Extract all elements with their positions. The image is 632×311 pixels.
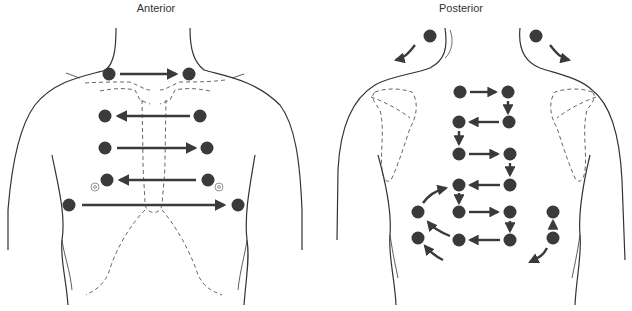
anterior-arrows xyxy=(82,74,224,205)
posterior-shoulder-sites xyxy=(424,30,543,43)
post-row1-right xyxy=(502,86,515,99)
ant-site-4-left xyxy=(101,174,114,187)
post-arrow-shoulder-left xyxy=(396,45,415,60)
post-row3-left xyxy=(453,148,466,161)
post-row2-left xyxy=(453,116,466,129)
left-nipple-icon xyxy=(91,183,99,191)
post-arrow-shoulder-right xyxy=(550,45,569,60)
posterior-torso-outline xyxy=(337,28,625,305)
ant-site-4-right xyxy=(202,174,215,187)
auscultation-diagram xyxy=(0,0,632,311)
post-lateral-right-lower xyxy=(547,232,560,245)
ant-site-1-left xyxy=(103,68,116,81)
anterior-auscultation-sites xyxy=(63,68,245,212)
ant-site-1-right xyxy=(183,68,196,81)
posterior-shoulder-arrows xyxy=(396,45,569,60)
posterior-auscultation-sites xyxy=(412,86,560,247)
post-lateral-left-lower xyxy=(412,232,425,245)
post-shoulder-right xyxy=(530,30,543,43)
ant-site-2-left xyxy=(99,110,112,123)
post-row6-left xyxy=(453,234,466,247)
post-row5-right xyxy=(504,206,517,219)
post-row4-right xyxy=(504,179,517,192)
right-nipple-icon xyxy=(215,183,223,191)
ant-site-3-right xyxy=(201,142,214,155)
anterior-torso-outline xyxy=(8,28,302,305)
ant-site-5-right xyxy=(232,199,245,212)
post-lateral-left-upper xyxy=(412,206,425,219)
scapula-outlines-dashed xyxy=(371,89,596,181)
post-lateral-right-upper xyxy=(547,206,560,219)
post-shoulder-left xyxy=(424,30,437,43)
post-row1-left xyxy=(454,86,467,99)
ant-site-3-left xyxy=(99,142,112,155)
posterior-arrows xyxy=(423,92,553,262)
ant-site-2-right xyxy=(194,110,207,123)
post-row6-right xyxy=(504,234,517,247)
post-row5-left xyxy=(453,206,466,219)
post-row4-left xyxy=(453,179,466,192)
post-row3-right xyxy=(504,148,517,161)
post-row2-right xyxy=(503,116,516,129)
ant-site-5-left xyxy=(63,199,76,212)
